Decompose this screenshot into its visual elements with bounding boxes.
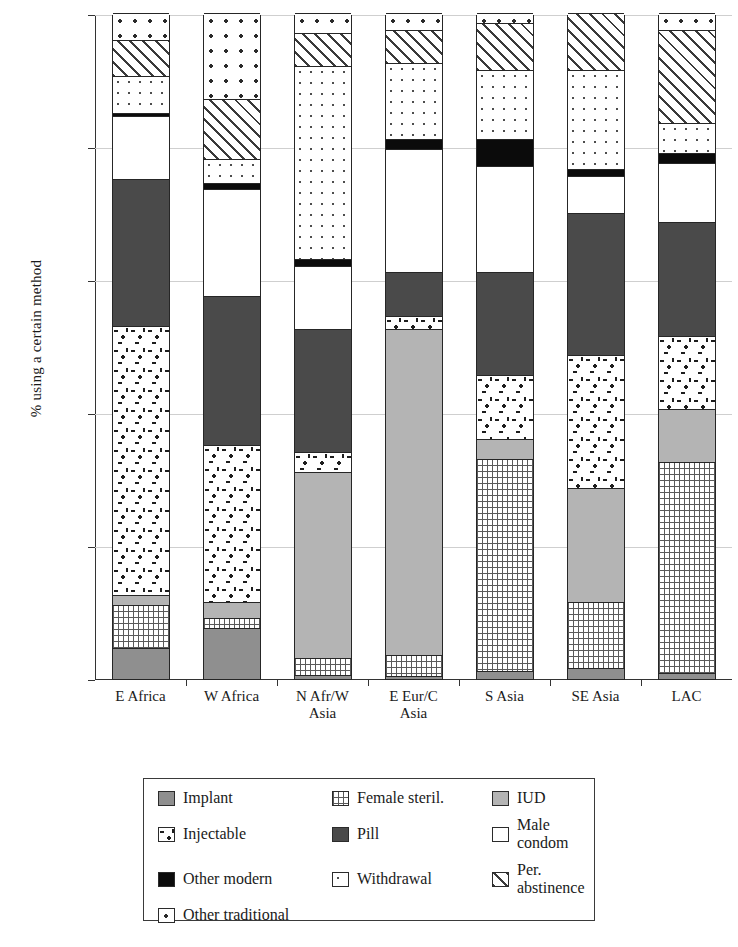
segment-othertrad[interactable] (295, 13, 351, 34)
x-axis-label: N Afr/W Asia (277, 688, 368, 722)
segment-femsteril[interactable] (659, 462, 715, 674)
segment-othertrad[interactable] (386, 13, 442, 31)
segment-condom[interactable] (659, 163, 715, 224)
segment-iud[interactable] (477, 439, 533, 460)
segment-withdrawal[interactable] (295, 66, 351, 260)
bar-s-asia[interactable] (476, 15, 534, 680)
x-axis-tick (459, 680, 460, 686)
legend-label: Per. abstinence (517, 861, 586, 897)
segment-othermodern[interactable] (295, 259, 351, 267)
segment-implant[interactable] (568, 668, 624, 679)
bar-e-eur-c-asia[interactable] (385, 15, 443, 680)
segment-perabst[interactable] (113, 40, 169, 78)
segment-condom[interactable] (386, 149, 442, 273)
legend-item-iud[interactable]: IUD (492, 789, 586, 807)
x-axis-label: SE Asia (550, 688, 641, 705)
segment-implant[interactable] (113, 648, 169, 679)
legend-item-implant[interactable]: Implant (158, 789, 332, 807)
segment-pill[interactable] (204, 296, 260, 447)
legend-item-injectable[interactable]: Injectable (158, 816, 332, 852)
segment-othermodern[interactable] (568, 169, 624, 177)
segment-condom[interactable] (295, 266, 351, 330)
segment-condom[interactable] (113, 116, 169, 180)
y-axis-tick (88, 680, 95, 681)
legend-item-pill[interactable]: Pill (332, 816, 492, 852)
legend-spacer (332, 906, 492, 924)
segment-perabst[interactable] (477, 23, 533, 71)
segment-othermodern[interactable] (386, 139, 442, 150)
segment-femsteril[interactable] (113, 605, 169, 649)
legend-swatch-icon (158, 908, 175, 923)
segment-withdrawal[interactable] (477, 70, 533, 141)
segment-pill[interactable] (113, 179, 169, 326)
legend-item-other-traditional[interactable]: Other traditional (158, 906, 332, 924)
plot-area: 100806040200 (95, 15, 732, 680)
segment-implant[interactable] (477, 671, 533, 679)
segment-othermodern[interactable] (204, 183, 260, 191)
segment-iud[interactable] (295, 472, 351, 659)
segment-withdrawal[interactable] (113, 76, 169, 114)
segment-perabst[interactable] (386, 30, 442, 64)
segment-othertrad[interactable] (477, 13, 533, 24)
segment-femsteril[interactable] (204, 618, 260, 629)
segment-injectable[interactable] (659, 336, 715, 410)
legend-item-withdrawal[interactable]: Withdrawal (332, 861, 492, 897)
segment-injectable[interactable] (386, 316, 442, 330)
bar-se-asia[interactable] (567, 15, 625, 680)
segment-iud[interactable] (568, 488, 624, 602)
segment-othermodern[interactable] (659, 153, 715, 164)
segment-othermodern[interactable] (477, 139, 533, 167)
legend-label: Implant (183, 789, 233, 807)
segment-injectable[interactable] (295, 452, 351, 473)
bar-w-africa[interactable] (203, 15, 261, 680)
legend-swatch-icon (158, 872, 175, 887)
segment-othertrad[interactable] (113, 13, 169, 41)
segment-withdrawal[interactable] (568, 70, 624, 171)
legend-label: Male condom (517, 816, 586, 852)
segment-condom[interactable] (477, 166, 533, 273)
x-axis-label: E Africa (95, 688, 186, 705)
legend-item-female-steril-[interactable]: Female steril. (332, 789, 492, 807)
bar-n-afr-w-asia[interactable] (294, 15, 352, 680)
segment-femsteril[interactable] (386, 655, 442, 677)
segment-pill[interactable] (295, 329, 351, 453)
segment-condom[interactable] (204, 189, 260, 296)
segment-iud[interactable] (659, 409, 715, 463)
legend-item-other-modern[interactable]: Other modern (158, 861, 332, 897)
segment-pill[interactable] (477, 272, 533, 376)
segment-femsteril[interactable] (295, 658, 351, 676)
x-axis-label: E Eur/C Asia (368, 688, 459, 722)
legend-item-male-condom[interactable]: Male condom (492, 816, 586, 852)
legend-label: Other traditional (183, 906, 289, 924)
segment-perabst[interactable] (659, 30, 715, 124)
segment-iud[interactable] (204, 602, 260, 620)
y-axis-tick (88, 148, 95, 149)
segment-condom[interactable] (568, 176, 624, 214)
bar-e-africa[interactable] (112, 15, 170, 680)
segment-othertrad[interactable] (204, 13, 260, 100)
segment-iud[interactable] (386, 329, 442, 656)
segment-withdrawal[interactable] (386, 63, 442, 140)
segment-othertrad[interactable] (659, 13, 715, 31)
segment-pill[interactable] (659, 222, 715, 336)
segment-femsteril[interactable] (568, 602, 624, 670)
legend-item-per-abstinence[interactable]: Per. abstinence (492, 861, 586, 897)
segment-perabst[interactable] (568, 13, 624, 71)
segment-withdrawal[interactable] (659, 123, 715, 154)
legend-swatch-icon (158, 791, 175, 806)
segment-withdrawal[interactable] (204, 159, 260, 183)
segment-pill[interactable] (568, 213, 624, 357)
bar-lac[interactable] (658, 15, 716, 680)
stacked-bar-chart: % using a certain method 100806040200 E … (0, 0, 738, 947)
segment-implant[interactable] (204, 628, 260, 679)
segment-perabst[interactable] (204, 99, 260, 160)
segment-injectable[interactable] (204, 445, 260, 602)
x-axis-label: LAC (641, 688, 732, 705)
segment-femsteril[interactable] (477, 459, 533, 673)
segment-injectable[interactable] (477, 375, 533, 439)
segment-injectable[interactable] (568, 355, 624, 489)
segment-iud[interactable] (113, 595, 169, 606)
segment-pill[interactable] (386, 272, 442, 316)
segment-injectable[interactable] (113, 326, 169, 596)
segment-perabst[interactable] (295, 33, 351, 67)
